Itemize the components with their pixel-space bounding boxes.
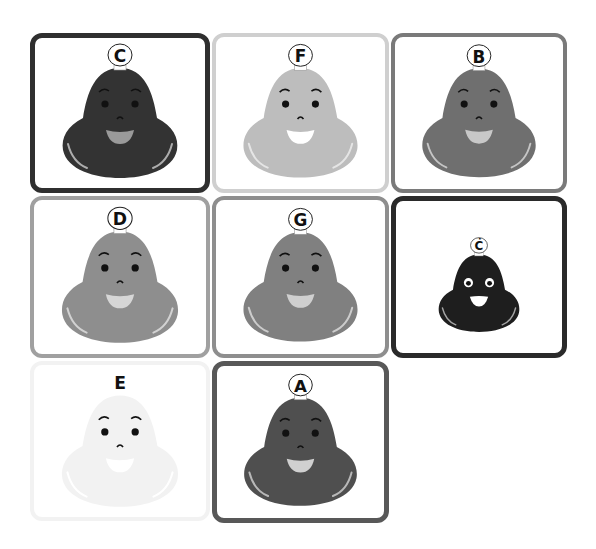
- character-face-icon: F: [216, 37, 385, 189]
- character-face-icon: Ċ: [396, 201, 562, 353]
- character-tile-f[interactable]: F: [212, 33, 389, 193]
- character-face-icon: E: [34, 365, 206, 517]
- character-tile-c[interactable]: C: [30, 33, 210, 193]
- character-tile-g[interactable]: G: [212, 196, 389, 358]
- tile-label: A: [294, 377, 307, 396]
- character-face-icon: C: [35, 38, 205, 188]
- character-tile-c-dot[interactable]: Ċ: [391, 196, 567, 358]
- tile-label: B: [473, 47, 486, 67]
- character-tile-a[interactable]: A: [212, 361, 389, 523]
- tile-label: D: [113, 209, 127, 229]
- character-tile-d[interactable]: D: [30, 196, 210, 358]
- character-face-icon: D: [34, 200, 206, 354]
- tile-label: G: [294, 210, 308, 230]
- character-face-icon: G: [216, 200, 385, 354]
- character-tile-b[interactable]: B: [391, 33, 567, 193]
- character-face-icon: B: [395, 37, 563, 189]
- character-face-icon: A: [217, 366, 384, 518]
- tile-label: E: [114, 373, 126, 393]
- tile-label: Ċ: [475, 238, 484, 253]
- tile-label: F: [295, 46, 307, 66]
- tile-label: C: [114, 46, 126, 66]
- character-tile-e[interactable]: E: [30, 361, 210, 521]
